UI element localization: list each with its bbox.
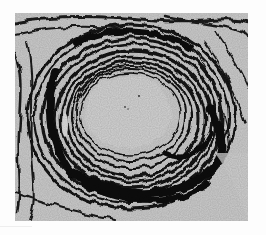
vessel-cross-section [15, 13, 248, 221]
grain-overlay [15, 13, 248, 221]
scan-artifact [0, 226, 32, 227]
micrograph [15, 13, 248, 221]
image-frame [0, 0, 266, 235]
